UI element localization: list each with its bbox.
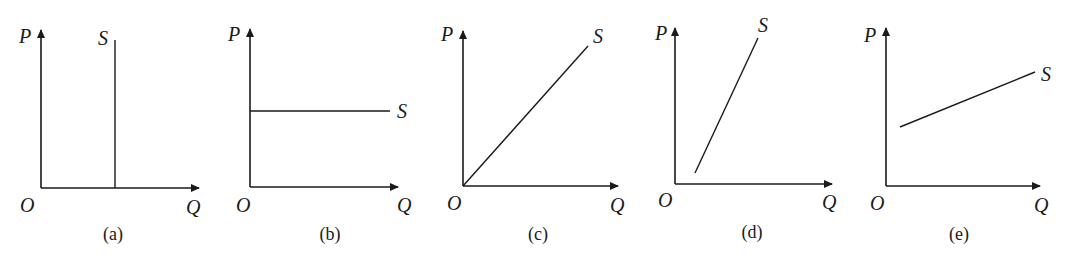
panel-caption: (e) <box>949 224 969 245</box>
p-axis-label: P <box>863 24 876 46</box>
panel-c: P S O Q (c) <box>440 23 625 245</box>
q-axis-label: Q <box>397 194 412 216</box>
supply-curve <box>695 38 758 173</box>
panel-caption: (d) <box>742 222 763 243</box>
supply-curve-label: S <box>758 14 768 36</box>
panel-caption: (a) <box>103 224 123 245</box>
origin-label: O <box>870 192 884 214</box>
supply-curve <box>900 72 1035 127</box>
panel-a: P S O Q (a) <box>18 25 201 245</box>
origin-label: O <box>658 189 672 211</box>
supply-curve-label: S <box>593 25 603 47</box>
panel-d: P S O Q (d) <box>654 14 837 243</box>
supply-curve <box>463 46 588 186</box>
supply-curve-label: S <box>1041 63 1051 85</box>
q-axis-label: Q <box>186 196 201 218</box>
panel-e: P S O Q (e) <box>863 24 1051 245</box>
p-axis-label: P <box>227 23 240 45</box>
panel-b: P S O Q (b) <box>227 23 412 245</box>
origin-label: O <box>447 192 461 214</box>
p-axis-label: P <box>18 25 31 47</box>
panel-caption: (c) <box>528 224 548 245</box>
q-axis-label: Q <box>1034 194 1049 216</box>
supply-curve-label: S <box>397 100 407 122</box>
origin-label: O <box>20 194 34 216</box>
p-axis-label: P <box>654 22 667 44</box>
origin-label: O <box>236 194 250 216</box>
supply-curve-label: S <box>98 27 108 49</box>
q-axis-label: Q <box>610 194 625 216</box>
q-axis-label: Q <box>822 191 837 213</box>
supply-curves-figure: P S O Q (a) P S O Q (b) P S O Q (c) P S … <box>0 0 1066 264</box>
p-axis-label: P <box>440 23 453 45</box>
panel-caption: (b) <box>320 224 341 245</box>
